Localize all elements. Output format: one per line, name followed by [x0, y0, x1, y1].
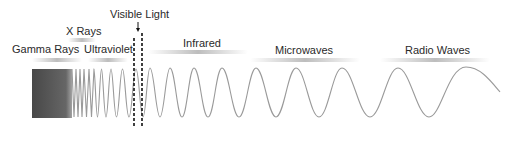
wave-graphic	[0, 0, 510, 141]
arrow-down-icon	[136, 22, 140, 32]
spectrum-wave	[72, 67, 500, 117]
gamma-dense-wave	[32, 69, 72, 118]
